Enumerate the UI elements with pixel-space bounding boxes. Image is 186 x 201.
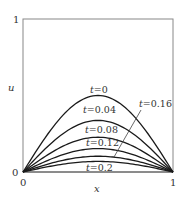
y-tick-0: 0 <box>12 167 18 178</box>
x-axis-label: x <box>94 183 100 194</box>
label-t016: t=0.16 <box>139 98 172 109</box>
y-axis-label: u <box>8 82 14 93</box>
label-t008: t=0.08 <box>85 124 118 135</box>
label-t004: t=0.04 <box>83 104 116 115</box>
label-t012: t=0.12 <box>86 137 119 148</box>
label-t02: t=0.2 <box>86 162 113 173</box>
x-tick-0: 0 <box>20 177 26 188</box>
label-t0: t=0 <box>90 84 108 95</box>
leader-line-t016 <box>114 110 141 157</box>
chart: 1 0 0 1 u x t=0 t=0.04 t=0.08 t=0.12 t=0… <box>0 0 186 201</box>
y-tick-1: 1 <box>13 14 19 25</box>
x-tick-1: 1 <box>170 177 176 188</box>
